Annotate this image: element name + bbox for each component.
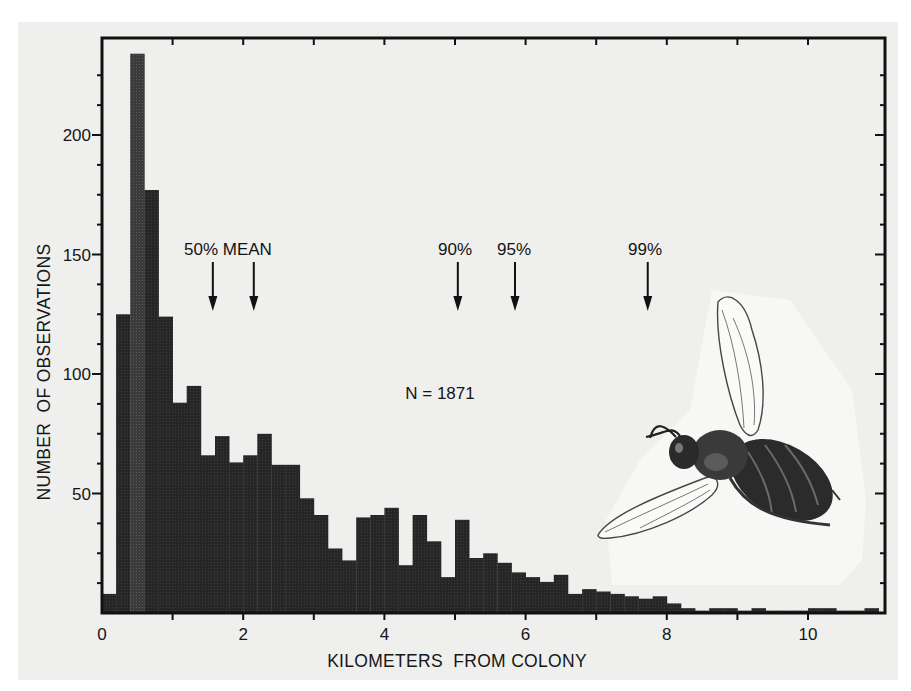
annotation-95: 95% — [497, 240, 531, 259]
annotation-arrow-icon — [511, 262, 520, 311]
histogram-bar — [116, 314, 131, 613]
x-axis-title: KILOMETERS FROM COLONY — [327, 651, 587, 671]
annotation-arrow-icon — [453, 262, 462, 311]
histogram-bar — [610, 594, 625, 613]
histogram-bar — [441, 577, 456, 613]
histogram-bar — [173, 403, 188, 613]
histogram-bar — [243, 455, 258, 613]
y-axis-title: NUMBER OF OBSERVATIONS — [34, 244, 54, 501]
figure-page: 024681050100150200 KILOMETERS FROM COLON… — [18, 22, 898, 680]
histogram-bar — [215, 436, 230, 613]
histogram-bar — [130, 54, 145, 613]
histogram-bar — [271, 465, 286, 613]
histogram-bar — [540, 582, 555, 613]
annotation-50-mean: 50% MEAN — [184, 240, 272, 259]
x-tick-label: 10 — [799, 625, 818, 644]
histogram-bar — [384, 508, 399, 613]
y-tick-label: 200 — [63, 126, 91, 145]
annotation-arrow-icon — [208, 262, 217, 311]
histogram-bar — [286, 465, 301, 613]
histogram-bar — [102, 594, 117, 613]
histogram-bar — [328, 549, 343, 614]
histogram-bar — [483, 553, 498, 613]
x-tick-label: 8 — [662, 625, 671, 644]
histogram-bar — [653, 596, 668, 613]
histogram-bar — [370, 515, 385, 613]
histogram-bar — [144, 190, 159, 613]
histogram-bar — [469, 558, 484, 613]
histogram-bar — [201, 455, 216, 613]
histogram-bar — [413, 515, 428, 613]
histogram-chart: 024681050100150200 KILOMETERS FROM COLON… — [18, 22, 898, 680]
histogram-bar — [582, 589, 597, 613]
y-tick-label: 150 — [63, 246, 91, 265]
histogram-bar — [187, 386, 202, 613]
histogram-bar — [568, 594, 583, 613]
annotation-90: 90% — [438, 240, 472, 259]
x-tick-label: 4 — [380, 625, 389, 644]
histogram-bar — [526, 577, 541, 613]
histogram-bar — [399, 565, 414, 613]
histogram-bar — [512, 572, 527, 613]
x-tick-label: 2 — [238, 625, 247, 644]
x-tick-label: 6 — [521, 625, 530, 644]
histogram-bar — [497, 563, 512, 613]
annotation-arrow-icon — [643, 262, 652, 311]
histogram-bar — [257, 434, 272, 613]
histogram-bar — [554, 575, 569, 613]
histogram-bar — [229, 462, 244, 613]
histogram-bar — [596, 592, 611, 614]
x-tick-label: 0 — [97, 625, 106, 644]
histogram-bar — [342, 560, 357, 613]
histogram-bar — [314, 515, 329, 613]
histogram-bar — [624, 596, 639, 613]
histogram-bar — [356, 517, 371, 613]
y-tick-label: 100 — [63, 365, 91, 384]
annotation-arrows — [208, 262, 652, 311]
histogram-bar — [639, 599, 654, 613]
histogram-bar — [455, 520, 470, 613]
y-tick-label: 50 — [72, 485, 91, 504]
annotation-99: 99% — [628, 240, 662, 259]
sample-size-label: N = 1871 — [405, 384, 474, 403]
histogram-bar — [427, 541, 442, 613]
histogram-bar — [159, 317, 174, 613]
histogram-bar — [300, 498, 315, 613]
annotation-arrow-icon — [249, 262, 258, 311]
